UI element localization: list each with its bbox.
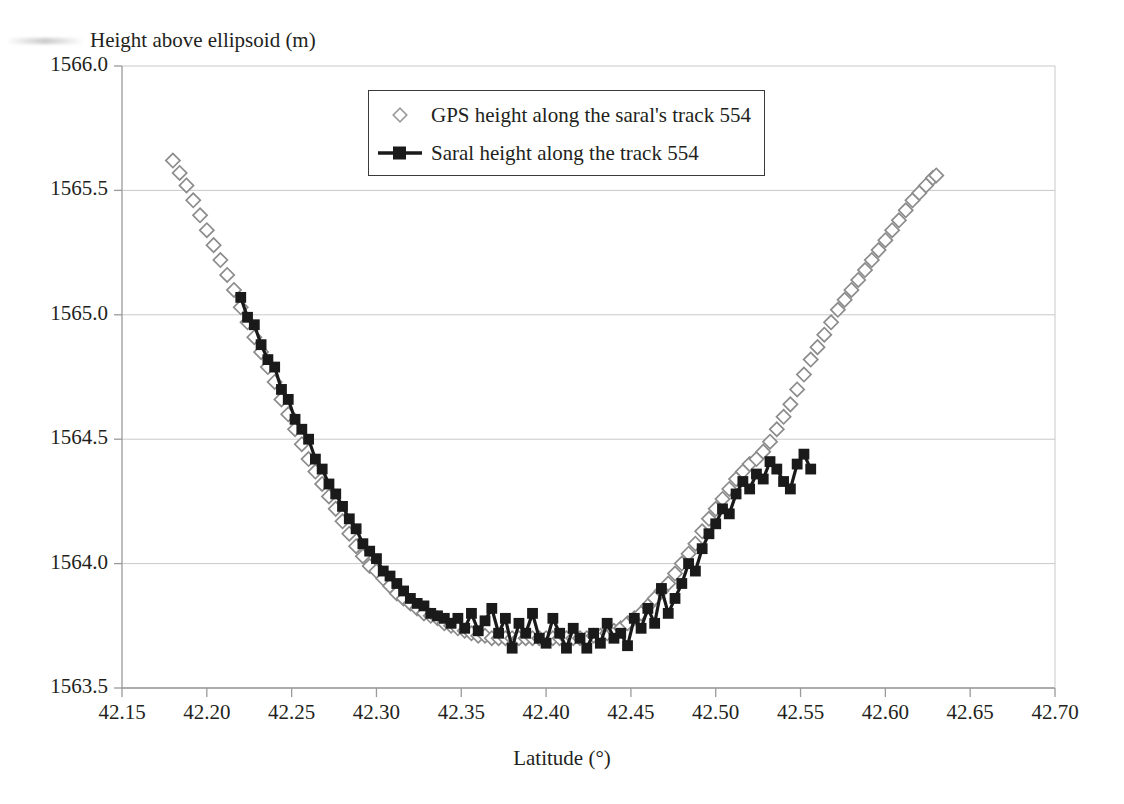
data-point-saral bbox=[758, 474, 769, 485]
legend-item-gps: GPS height along the saral's track 554 bbox=[369, 97, 764, 133]
data-point-saral bbox=[575, 633, 586, 644]
data-point-saral bbox=[371, 553, 382, 564]
data-point-saral bbox=[649, 618, 660, 629]
data-point-saral bbox=[622, 640, 633, 651]
data-point-saral bbox=[588, 628, 599, 639]
data-point-saral bbox=[452, 613, 463, 624]
data-point-saral bbox=[642, 603, 653, 614]
legend-label-gps: GPS height along the saral's track 554 bbox=[431, 103, 751, 128]
data-point-gps bbox=[207, 238, 221, 252]
data-point-saral bbox=[792, 459, 803, 470]
data-point-saral bbox=[459, 623, 470, 634]
data-point-saral bbox=[595, 638, 606, 649]
data-point-gps bbox=[824, 315, 838, 329]
legend-label-saral: Saral height along the track 554 bbox=[431, 141, 699, 166]
data-point-saral bbox=[697, 543, 708, 554]
data-point-saral bbox=[317, 464, 328, 475]
data-point-saral bbox=[344, 513, 355, 524]
data-point-saral bbox=[486, 603, 497, 614]
square-line-icon bbox=[369, 143, 431, 163]
data-point-saral bbox=[283, 394, 294, 405]
data-point-saral bbox=[480, 615, 491, 626]
legend: GPS height along the saral's track 554 S… bbox=[368, 90, 765, 176]
data-point-saral bbox=[615, 628, 626, 639]
data-point-saral bbox=[473, 625, 484, 636]
data-point-saral bbox=[656, 583, 667, 594]
data-point-gps bbox=[213, 253, 227, 267]
data-point-saral bbox=[724, 508, 735, 519]
series-gps-height bbox=[166, 153, 944, 645]
data-point-gps bbox=[200, 223, 214, 237]
data-point-saral bbox=[710, 518, 721, 529]
data-point-gps bbox=[817, 328, 831, 342]
data-point-saral bbox=[799, 449, 810, 460]
data-point-saral bbox=[805, 464, 816, 475]
data-point-saral bbox=[303, 434, 314, 445]
data-point-gps bbox=[186, 193, 200, 207]
data-point-saral bbox=[296, 424, 307, 435]
data-point-saral bbox=[581, 643, 592, 654]
data-point-saral bbox=[744, 484, 755, 495]
data-point-saral bbox=[527, 608, 538, 619]
data-point-saral bbox=[547, 613, 558, 624]
chart-container: Height above ellipsoid (m) Latitude (°) … bbox=[0, 0, 1124, 804]
data-point-saral bbox=[690, 566, 701, 577]
data-point-saral bbox=[337, 501, 348, 512]
data-point-saral bbox=[554, 628, 565, 639]
data-point-saral bbox=[514, 618, 525, 629]
data-point-gps bbox=[770, 422, 784, 436]
data-point-gps bbox=[193, 208, 207, 222]
data-point-gps bbox=[220, 268, 234, 282]
data-point-saral bbox=[269, 362, 280, 373]
data-point-saral bbox=[276, 384, 287, 395]
data-point-saral bbox=[663, 608, 674, 619]
data-point-saral bbox=[704, 528, 715, 539]
data-point-saral bbox=[507, 643, 518, 654]
series-saral-height bbox=[235, 292, 816, 654]
legend-item-saral: Saral height along the track 554 bbox=[369, 135, 764, 171]
data-point-gps bbox=[810, 340, 824, 354]
diamond-outline-icon bbox=[369, 105, 431, 125]
data-point-saral bbox=[310, 454, 321, 465]
data-point-saral bbox=[493, 628, 504, 639]
data-point-gps bbox=[777, 410, 791, 424]
data-point-saral bbox=[330, 489, 341, 500]
data-point-saral bbox=[324, 479, 335, 490]
data-point-saral bbox=[500, 613, 511, 624]
data-point-saral bbox=[249, 319, 260, 330]
data-point-saral bbox=[629, 613, 640, 624]
data-point-gps bbox=[804, 353, 818, 367]
data-point-saral bbox=[290, 414, 301, 425]
data-point-gps bbox=[166, 153, 180, 167]
data-point-saral bbox=[541, 638, 552, 649]
data-point-saral bbox=[466, 608, 477, 619]
data-point-saral bbox=[568, 623, 579, 634]
data-point-saral bbox=[676, 578, 687, 589]
data-point-saral bbox=[731, 489, 742, 500]
data-point-gps bbox=[783, 397, 797, 411]
data-point-saral bbox=[256, 339, 267, 350]
data-point-gps bbox=[790, 382, 804, 396]
data-point-saral bbox=[351, 523, 362, 534]
data-point-saral bbox=[785, 484, 796, 495]
data-point-gps bbox=[173, 166, 187, 180]
data-point-saral bbox=[235, 292, 246, 303]
data-point-saral bbox=[561, 643, 572, 654]
data-point-saral bbox=[670, 593, 681, 604]
data-point-saral bbox=[771, 464, 782, 475]
data-point-saral bbox=[602, 618, 613, 629]
data-point-saral bbox=[520, 628, 531, 639]
data-point-gps bbox=[797, 367, 811, 381]
data-point-saral bbox=[636, 623, 647, 634]
